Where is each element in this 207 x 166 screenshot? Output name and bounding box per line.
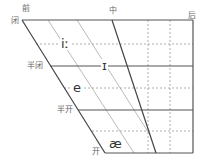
label-front: 前 xyxy=(22,5,30,13)
vowel-e: e xyxy=(72,81,82,94)
label-back: 后 xyxy=(188,12,196,20)
vowel-trapezoid-chart xyxy=(0,0,207,166)
vowel-i-long: iː xyxy=(60,37,70,50)
vowel-near-close-i: ɪ xyxy=(101,59,108,72)
label-open-mid: 半开 xyxy=(57,106,73,114)
label-central: 中 xyxy=(109,7,117,15)
vowel-ae: æ xyxy=(108,137,123,150)
label-close-mid: 半闭 xyxy=(27,62,43,70)
label-close: 闭 xyxy=(11,17,19,25)
label-open: 开 xyxy=(92,148,100,156)
